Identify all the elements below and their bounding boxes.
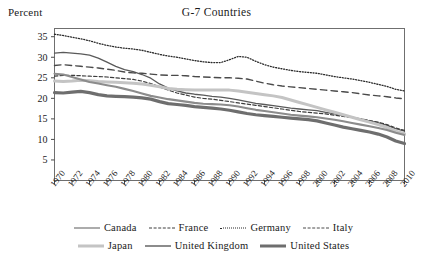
x-tick-label: 2010 [398,168,417,189]
x-tick-label: 1994 [258,168,277,189]
y-tick-label: 15 [38,113,48,124]
legend-item-italy[interactable]: Italy [303,222,353,233]
legend-item-canada[interactable]: Canada [74,222,137,233]
x-tick-label: 1990 [223,168,242,189]
legend-item-united-states[interactable]: United States [260,240,349,251]
x-tick-label: 1972 [66,168,85,188]
legend-label: Japan [108,240,133,251]
x-tick-label: 1970 [48,168,67,189]
chart-figure: Percent G-7 Countries 510152025303519701… [0,0,427,269]
legend-item-germany[interactable]: Germany [220,222,290,233]
x-tick-label: 2004 [346,168,365,189]
legend-label: Germany [250,222,290,233]
x-tick-label: 1976 [101,168,120,189]
x-tick-label: 1978 [118,168,137,189]
y-tick-label: 30 [38,52,48,63]
y-tick-label: 25 [38,72,48,83]
y-tick-label: 20 [38,93,48,104]
legend-item-united-kingdom[interactable]: United Kingdom [145,240,249,251]
legend-swatch-france [149,223,175,233]
y-tick-label: 35 [38,31,48,42]
legend-row-2: JapanUnited KingdomUnited States [0,240,427,251]
legend-row-1: CanadaFranceGermanyItaly [0,222,427,233]
legend-label: France [179,222,209,233]
series-line-japan [55,80,405,133]
x-tick-label: 1974 [83,168,102,189]
x-tick-label: 1986 [188,168,207,189]
legend-swatch-united-kingdom [145,241,171,251]
x-tick-label: 1992 [241,168,260,188]
series-line-canada [55,52,405,131]
x-tick-label: 1996 [276,168,295,189]
legend-label: United States [290,240,349,251]
x-tick-label: 1980 [136,168,155,189]
legend-item-france[interactable]: France [149,222,209,233]
x-tick-label: 1988 [206,168,225,189]
y-tick-label: 5 [43,154,48,165]
x-tick-label: 1998 [293,168,312,189]
legend-swatch-canada [74,223,100,233]
x-tick-label: 1984 [171,168,190,189]
x-tick-label: 2006 [363,168,382,189]
x-tick-label: 1982 [153,168,172,188]
y-tick-label: 10 [38,134,48,145]
x-tick-label: 2008 [381,168,400,189]
legend-label: United Kingdom [175,240,249,251]
x-tick-label: 2000 [311,168,330,189]
legend-swatch-japan [78,241,104,251]
x-tick-label: 2002 [328,168,347,188]
legend-label: Italy [333,222,353,233]
legend-item-japan[interactable]: Japan [78,240,133,251]
legend-swatch-germany [220,223,246,233]
legend-swatch-italy [303,223,329,233]
legend-swatch-united-states [260,241,286,251]
legend-label: Canada [104,222,137,233]
